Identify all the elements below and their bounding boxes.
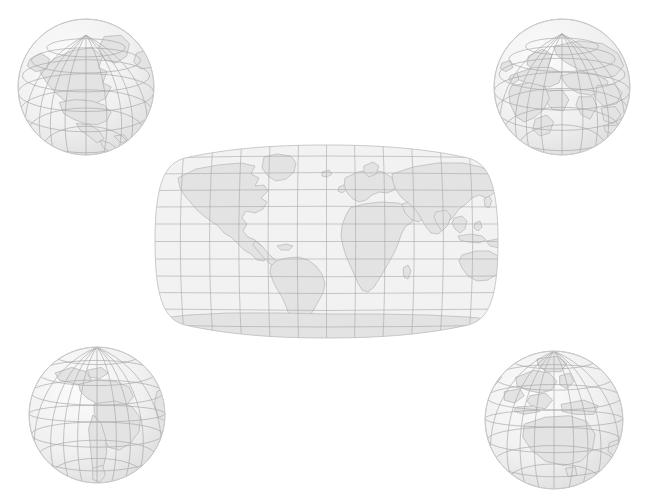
globe-eurasia-svg bbox=[492, 17, 632, 157]
land-south-america-edge bbox=[121, 151, 142, 157]
land-new-zealand bbox=[501, 280, 505, 289]
globe-north-america[interactable] bbox=[16, 17, 156, 157]
globe-oceania[interactable] bbox=[483, 349, 625, 491]
globe-south-america-svg bbox=[27, 345, 167, 485]
land-new-zealand-south bbox=[614, 457, 624, 467]
globe-south-america[interactable] bbox=[27, 345, 167, 485]
world-map[interactable] bbox=[148, 143, 505, 340]
world-map-svg bbox=[148, 143, 505, 340]
globe-oceania-svg bbox=[483, 349, 625, 491]
globe-north-america-svg bbox=[16, 17, 156, 157]
globe-map-scene bbox=[0, 0, 649, 503]
globe-eurasia[interactable] bbox=[492, 17, 632, 157]
